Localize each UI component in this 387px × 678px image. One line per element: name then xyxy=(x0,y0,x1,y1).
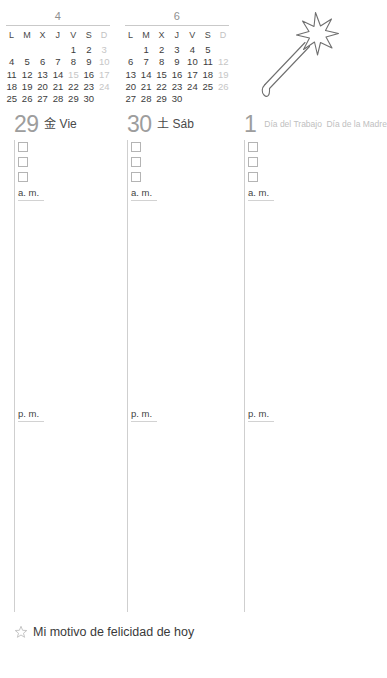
mini-calendar-day[interactable]: 4 xyxy=(185,42,200,54)
task-checkbox[interactable] xyxy=(18,172,28,182)
mini-calendar-week-row: 11121314151617 xyxy=(4,67,112,79)
weekday-header: D xyxy=(97,29,112,42)
mini-calendar-day[interactable]: 27 xyxy=(123,92,138,104)
mini-calendar-day[interactable]: 14 xyxy=(138,67,153,79)
mini-calendar-day[interactable]: 30 xyxy=(81,92,96,104)
am-label: a. m. xyxy=(131,187,157,198)
mini-calendar-day[interactable]: 29 xyxy=(154,92,169,104)
mini-calendar-day[interactable]: 25 xyxy=(4,92,19,104)
mini-calendar-day[interactable]: 16 xyxy=(81,67,96,79)
day-abbreviation: Vie xyxy=(56,112,77,137)
pm-slot[interactable]: p. m. xyxy=(248,408,274,422)
mini-calendar-day[interactable]: 18 xyxy=(200,67,215,79)
mini-calendar-day[interactable]: 9 xyxy=(81,55,96,67)
mini-calendar-day[interactable]: 28 xyxy=(138,92,153,104)
mini-calendar-day[interactable]: 3 xyxy=(169,42,184,54)
mini-calendar-day[interactable]: 3 xyxy=(97,42,112,54)
mini-calendar-day[interactable]: 10 xyxy=(97,55,112,67)
mini-calendar-day[interactable]: 23 xyxy=(81,80,96,92)
task-checkbox[interactable] xyxy=(248,157,258,167)
mini-calendar-week-row: 18192021222324 xyxy=(4,80,112,92)
mini-calendar-day[interactable]: 28 xyxy=(50,92,65,104)
mini-calendar-day[interactable]: 25 xyxy=(200,80,215,92)
pm-slot[interactable]: p. m. xyxy=(18,408,44,422)
day-number: 29 xyxy=(14,112,39,137)
mini-calendar-day[interactable]: 1 xyxy=(138,42,153,54)
mini-calendar-day[interactable]: 10 xyxy=(185,55,200,67)
mini-calendar-day[interactable]: 1 xyxy=(66,42,81,54)
mini-calendar-day[interactable]: 24 xyxy=(185,80,200,92)
holiday-label: Día del Trabajo xyxy=(264,119,322,129)
mini-calendar-day[interactable]: 17 xyxy=(185,67,200,79)
mini-calendar-month-label: 6 xyxy=(123,10,231,25)
mini-calendar-day[interactable]: 5 xyxy=(200,42,215,54)
mini-calendar-week-row: 252627282930 xyxy=(4,92,112,104)
task-checkbox[interactable] xyxy=(18,157,28,167)
pm-slot[interactable]: p. m. xyxy=(131,408,157,422)
mini-calendar-day[interactable]: 13 xyxy=(123,67,138,79)
task-checkbox[interactable] xyxy=(131,142,141,152)
mini-calendar-day[interactable]: 4 xyxy=(4,55,19,67)
mini-calendar-day[interactable]: 9 xyxy=(169,55,184,67)
task-checkbox[interactable] xyxy=(248,142,258,152)
am-rule xyxy=(248,200,274,201)
mini-calendar-day[interactable]: 7 xyxy=(138,55,153,67)
day-abbreviation: Sáb xyxy=(169,112,194,137)
mini-calendar-day[interactable]: 19 xyxy=(216,67,231,79)
mini-calendar-day[interactable]: 20 xyxy=(35,80,50,92)
am-slot[interactable]: a. m. xyxy=(18,187,44,201)
mini-calendar-day[interactable]: 21 xyxy=(50,80,65,92)
mini-calendar-day[interactable]: 12 xyxy=(19,67,34,79)
task-checkbox[interactable] xyxy=(131,157,141,167)
pm-label: p. m. xyxy=(248,408,274,419)
magic-wand-illustration xyxy=(252,4,344,100)
mini-calendar-day[interactable]: 23 xyxy=(169,80,184,92)
task-checkbox[interactable] xyxy=(131,172,141,182)
day-header: 30土Sáb xyxy=(127,112,194,140)
task-checkbox[interactable] xyxy=(18,142,28,152)
mini-calendar-day[interactable]: 27 xyxy=(35,92,50,104)
mini-calendar-day[interactable]: 17 xyxy=(97,67,112,79)
mini-calendar-day[interactable]: 15 xyxy=(66,67,81,79)
mini-calendar-day[interactable]: 2 xyxy=(154,42,169,54)
mini-calendar-day[interactable]: 7 xyxy=(50,55,65,67)
mini-calendar-day[interactable]: 15 xyxy=(154,67,169,79)
mini-calendar-day[interactable]: 30 xyxy=(169,92,184,104)
am-slot[interactable]: a. m. xyxy=(131,187,157,201)
mini-calendar-day[interactable]: 22 xyxy=(66,80,81,92)
mini-calendar-day[interactable]: 29 xyxy=(66,92,81,104)
column-divider xyxy=(14,140,15,612)
task-checkbox[interactable] xyxy=(248,172,258,182)
pm-rule xyxy=(131,421,157,422)
mini-calendar-day[interactable]: 19 xyxy=(19,80,34,92)
mini-calendar-day[interactable]: 21 xyxy=(138,80,153,92)
pm-rule xyxy=(248,421,274,422)
mini-calendar-day[interactable]: 8 xyxy=(154,55,169,67)
mini-calendar-day[interactable]: 11 xyxy=(4,67,19,79)
mini-calendar-day[interactable]: 26 xyxy=(216,80,231,92)
mini-calendar-day[interactable]: 13 xyxy=(35,67,50,79)
mini-calendar-grid: L M X J V S D 12345678910111213141516171… xyxy=(4,29,112,104)
mini-calendar-day[interactable]: 12 xyxy=(216,55,231,67)
mini-calendar-day[interactable]: 22 xyxy=(154,80,169,92)
mini-calendar-body-1: 1234567891011121314151617181920212223242… xyxy=(4,42,112,104)
mini-calendar-day[interactable]: 14 xyxy=(50,67,65,79)
am-slot[interactable]: a. m. xyxy=(248,187,274,201)
mini-calendar-day[interactable]: 8 xyxy=(66,55,81,67)
mini-calendar-day[interactable]: 5 xyxy=(19,55,34,67)
day-kanji: 土 xyxy=(152,112,169,137)
mini-calendar-day[interactable]: 20 xyxy=(123,80,138,92)
mini-calendar-day[interactable]: 2 xyxy=(81,42,96,54)
mini-calendar-rule xyxy=(125,25,229,26)
holiday-list: Día del Trabajo Día de la Madre xyxy=(256,112,387,131)
task-checkbox-list xyxy=(18,142,28,187)
mini-calendar-day[interactable]: 6 xyxy=(35,55,50,67)
mini-calendar-day[interactable]: 16 xyxy=(169,67,184,79)
mini-calendar-day[interactable]: 24 xyxy=(97,80,112,92)
weekday-header: X xyxy=(35,29,50,42)
pm-label: p. m. xyxy=(18,408,44,419)
mini-calendar-day[interactable]: 18 xyxy=(4,80,19,92)
mini-calendar-day[interactable]: 26 xyxy=(19,92,34,104)
mini-calendar-day[interactable]: 11 xyxy=(200,55,215,67)
mini-calendar-day[interactable]: 6 xyxy=(123,55,138,67)
